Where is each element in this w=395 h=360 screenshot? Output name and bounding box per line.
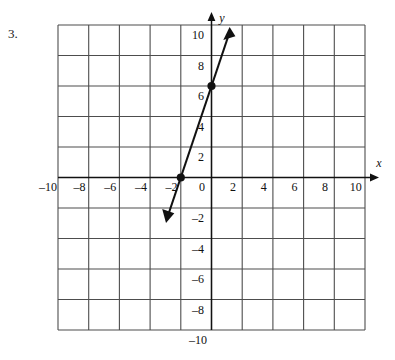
axes (58, 12, 379, 330)
y-tick-label: –4 (191, 242, 204, 256)
y-axis-arrow-icon (208, 12, 216, 21)
line-down-arrowhead-icon (162, 209, 174, 223)
y-tick-label: 6 (198, 89, 204, 103)
data-point-marker (207, 82, 215, 90)
x-tick-label: –8 (73, 180, 86, 194)
x-axis-arrow-icon (370, 174, 379, 182)
y-tick-label: –2 (191, 211, 204, 225)
y-tick-label: 10 (192, 28, 204, 42)
x-axis-label: x (375, 156, 382, 170)
x-tick-label: 10 (350, 180, 362, 194)
coordinate-plane-graph: x y –10 –8 –6 –4 –2 2 4 6 8 10 0 10 8 6 … (0, 0, 395, 360)
data-point-marker (177, 173, 185, 181)
y-tick-label: –6 (191, 272, 204, 286)
x-tick-label: –10 (38, 180, 57, 194)
line-up-arrowhead-icon (223, 27, 235, 40)
origin-label: 0 (199, 180, 205, 194)
y-tick-label: –10 (188, 333, 207, 347)
y-tick-label: –8 (191, 303, 204, 317)
x-tick-label: –4 (134, 180, 147, 194)
x-tick-label: 2 (230, 180, 236, 194)
x-tick-label: 6 (291, 180, 297, 194)
x-tick-label: 8 (322, 180, 328, 194)
worksheet-problem-panel: 3. (0, 0, 395, 360)
y-tick-label: 2 (198, 150, 204, 164)
x-tick-label: –6 (103, 180, 116, 194)
y-tick-label: 8 (198, 59, 204, 73)
y-axis-label: y (218, 11, 225, 25)
x-tick-label: 4 (261, 180, 267, 194)
